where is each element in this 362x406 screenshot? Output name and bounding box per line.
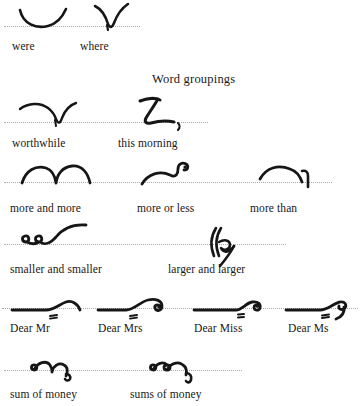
caption-smaller-and-smaller: smaller and smaller — [10, 263, 102, 275]
shorthand-reference-page: were where Word groupings worthwhile thi… — [0, 0, 362, 406]
shorthand-outline-this-morning — [134, 96, 192, 130]
page-title: Word groupings — [152, 72, 235, 87]
shorthand-outline-larger-and-larger — [208, 226, 242, 268]
caption-worthwhile: worthwhile — [12, 137, 65, 149]
caption-more-and-more: more and more — [10, 202, 81, 214]
baseline-rule-row-1 — [4, 26, 140, 27]
baseline-rule-row-4 — [4, 244, 286, 245]
caption-sums-of-money: sums of money — [130, 388, 202, 400]
shorthand-outline-more-than — [258, 163, 314, 189]
caption-dear-mrs: Dear Mrs — [98, 322, 143, 334]
shorthand-outline-dear-mrs — [96, 294, 174, 318]
baseline-rule-row-2 — [4, 122, 208, 123]
caption-larger-and-larger: larger and larger — [168, 263, 245, 275]
caption-dear-mr: Dear Mr — [10, 322, 50, 334]
shorthand-outline-dear-ms — [284, 292, 350, 320]
caption-dear-miss: Dear Miss — [194, 322, 243, 334]
caption-more-or-less: more or less — [137, 202, 194, 214]
baseline-rule-row-6 — [4, 370, 242, 371]
caption-were: were — [12, 40, 35, 52]
caption-sum-of-money: sum of money — [10, 388, 77, 400]
caption-dear-ms: Dear Ms — [288, 322, 329, 334]
shorthand-outline-sum-of-money — [28, 356, 80, 382]
shorthand-outline-dear-miss — [192, 294, 264, 318]
caption-this-morning: this morning — [118, 137, 178, 149]
shorthand-outline-dear-mr — [10, 294, 84, 318]
baseline-rule-row-5 — [2, 308, 358, 309]
baseline-rule-row-3 — [4, 182, 332, 183]
caption-more-than: more than — [250, 202, 297, 214]
caption-where: where — [80, 40, 109, 52]
